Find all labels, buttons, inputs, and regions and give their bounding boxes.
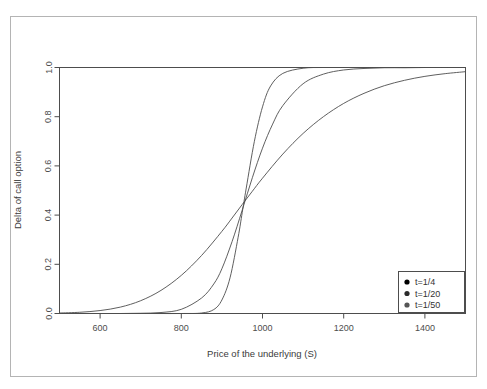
x-axis-title: Price of the underlying (S) bbox=[207, 348, 317, 359]
legend-label-1: t=1/20 bbox=[415, 289, 440, 299]
y-axis-tick-labels: 0.00.20.40.60.81.0 bbox=[44, 61, 54, 320]
y-axis-title: Delta of call option bbox=[12, 151, 23, 229]
x-tick-label: 1000 bbox=[252, 323, 272, 333]
legend-marker-1 bbox=[404, 291, 409, 296]
y-tick-label: 0.4 bbox=[44, 209, 54, 222]
y-tick-label: 1.0 bbox=[44, 61, 54, 74]
x-tick-label: 1200 bbox=[334, 323, 354, 333]
legend-label-0: t=1/4 bbox=[415, 277, 435, 287]
y-axis-ticks bbox=[55, 68, 60, 314]
x-axis-ticks bbox=[100, 314, 425, 319]
y-tick-label: 0.0 bbox=[44, 307, 54, 320]
x-tick-label: 1400 bbox=[415, 323, 435, 333]
legend[interactable]: t=1/4t=1/20t=1/50 bbox=[399, 272, 465, 313]
x-tick-label: 800 bbox=[174, 323, 189, 333]
plot-canvas: 600800100012001400 0.00.20.40.60.81.0 Pr… bbox=[0, 0, 487, 389]
y-tick-label: 0.2 bbox=[44, 258, 54, 271]
legend-marker-2 bbox=[404, 302, 409, 307]
x-axis-tick-labels: 600800100012001400 bbox=[93, 323, 435, 333]
legend-label-2: t=1/50 bbox=[415, 300, 440, 310]
chart-figure: 600800100012001400 0.00.20.40.60.81.0 Pr… bbox=[0, 0, 487, 389]
legend-marker-0 bbox=[404, 279, 409, 284]
y-tick-label: 0.8 bbox=[44, 110, 54, 123]
x-tick-label: 600 bbox=[93, 323, 108, 333]
y-tick-label: 0.6 bbox=[44, 160, 54, 173]
